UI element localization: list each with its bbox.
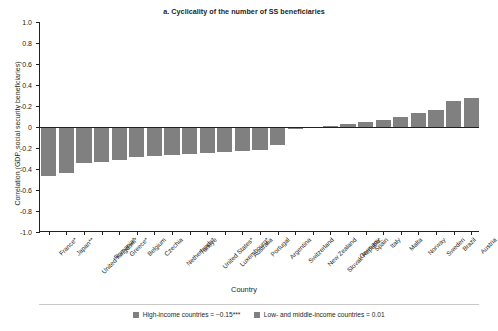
bar [147, 127, 162, 156]
x-tick-mark [454, 231, 455, 235]
bar [252, 127, 267, 150]
x-tick-mark [154, 231, 155, 235]
y-tick-label: 0.8 [0, 40, 32, 47]
bar [41, 127, 56, 176]
x-tick-mark [242, 231, 243, 235]
x-tick-mark [190, 231, 191, 235]
x-tick-mark [119, 231, 120, 235]
y-tick-label: -0.6 [0, 187, 32, 194]
y-tick-mark [36, 169, 40, 170]
x-tick-label: Italy [389, 236, 402, 249]
y-tick-mark [36, 211, 40, 212]
x-tick-mark [401, 231, 402, 235]
x-tick-label: Czechia [163, 236, 184, 257]
legend-item-high-income: High-income countries = −0.15*** [133, 311, 240, 318]
bar [464, 98, 479, 127]
x-tick-mark [436, 231, 437, 235]
bar [217, 127, 232, 152]
y-tick-label: -0.2 [0, 145, 32, 152]
y-tick-label: -0.8 [0, 208, 32, 215]
y-tick-label: -1.0 [0, 229, 32, 236]
x-tick-mark [278, 231, 279, 235]
bar [112, 127, 127, 160]
legend-item-low-middle-income: Low- and middle-income countries = 0.01 [254, 311, 384, 318]
x-tick-mark [330, 231, 331, 235]
bar [393, 117, 408, 128]
x-tick-mark [84, 231, 85, 235]
bar [94, 127, 109, 162]
y-tick-label: 0.4 [0, 82, 32, 89]
x-tick-mark [260, 231, 261, 235]
y-tick-mark [36, 106, 40, 107]
legend-swatch-icon [133, 312, 139, 318]
x-tick-label: France* [57, 236, 78, 257]
x-tick-mark [49, 231, 50, 235]
chart-legend: High-income countries = −0.15*** Low- an… [39, 304, 479, 318]
x-axis-title: Country [0, 285, 488, 294]
legend-swatch-icon [254, 312, 260, 318]
bar [200, 127, 215, 153]
x-tick-mark [225, 231, 226, 235]
x-tick-mark [383, 231, 384, 235]
y-tick-mark [36, 148, 40, 149]
bar [164, 127, 179, 155]
bar [376, 120, 391, 127]
y-tick-mark [36, 22, 40, 23]
plot-area [39, 22, 479, 232]
y-tick-mark [36, 64, 40, 65]
bar [411, 113, 426, 127]
zero-baseline [40, 127, 479, 128]
x-tick-label: Austria [479, 236, 498, 255]
x-tick-mark [66, 231, 67, 235]
x-tick-mark [471, 231, 472, 235]
x-tick-mark [366, 231, 367, 235]
bar [446, 101, 461, 127]
y-tick-label: -0.4 [0, 166, 32, 173]
y-tick-label: 0.2 [0, 103, 32, 110]
x-tick-mark [137, 231, 138, 235]
bar [270, 127, 285, 145]
x-tick-mark [348, 231, 349, 235]
x-tick-label: Norway [427, 236, 447, 256]
x-tick-label: Malta [407, 236, 423, 252]
bar [59, 127, 74, 173]
x-tick-mark [313, 231, 314, 235]
chart-title: a. Cyclicality of the number of SS benef… [0, 7, 488, 16]
x-tick-label: Japan** [75, 236, 96, 257]
y-tick-mark [36, 85, 40, 86]
legend-label: High-income countries = −0.15*** [143, 311, 241, 318]
bar [129, 127, 144, 157]
y-tick-mark [36, 43, 40, 44]
x-tick-mark [102, 231, 103, 235]
bar [428, 110, 443, 127]
y-tick-mark [36, 190, 40, 191]
legend-label: Low- and middle-income countries = 0.01 [264, 311, 385, 318]
bar [182, 127, 197, 154]
y-tick-mark [36, 232, 40, 233]
bar [235, 127, 250, 151]
x-tick-mark [295, 231, 296, 235]
x-tick-mark [207, 231, 208, 235]
y-tick-label: 1.0 [0, 19, 32, 26]
bar [76, 127, 91, 163]
x-tick-mark [172, 231, 173, 235]
y-tick-label: 0.6 [0, 61, 32, 68]
y-tick-label: 0 [0, 124, 32, 131]
